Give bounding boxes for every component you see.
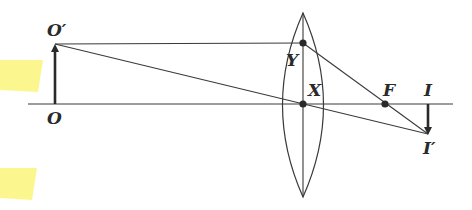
- point-x: [299, 100, 306, 107]
- refracted-ray: [303, 43, 428, 134]
- label-point-y: Y: [286, 52, 298, 69]
- diagram-canvas: [0, 0, 472, 210]
- lens-ray-diagram: O′ O Y X F I I′: [0, 0, 472, 210]
- central-ray: [55, 44, 428, 134]
- label-point-x: X: [308, 82, 321, 99]
- point-f: [381, 100, 388, 107]
- label-focal-point: F: [383, 82, 395, 99]
- highlight-mark-bottom: [0, 168, 37, 200]
- label-image-tip: I′: [423, 140, 435, 157]
- label-object-base: O: [47, 110, 62, 127]
- highlight-mark-top: [0, 60, 43, 92]
- parallel-ray: [55, 43, 303, 44]
- label-image-base: I: [424, 82, 432, 99]
- point-y: [299, 39, 306, 46]
- label-object-top: O′: [47, 22, 66, 39]
